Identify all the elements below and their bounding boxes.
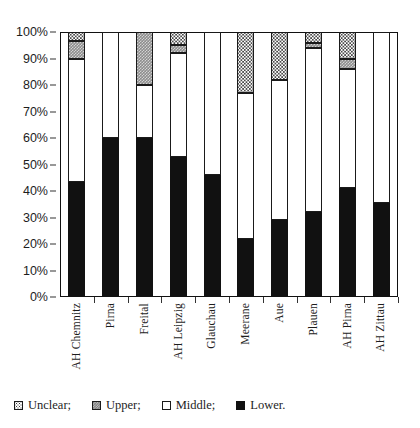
bar-stack bbox=[373, 32, 390, 297]
bar-segment-upper bbox=[136, 32, 153, 85]
legend-item-middle: Middle; bbox=[162, 399, 216, 412]
bar-segment-middle bbox=[102, 32, 119, 138]
bar-stack bbox=[204, 32, 221, 297]
bar-segment-lower bbox=[305, 212, 322, 297]
legend-swatch-lower-icon bbox=[236, 401, 245, 410]
legend-label: Unclear; bbox=[28, 399, 71, 412]
bar-segment-middle bbox=[271, 80, 288, 220]
bar-stack bbox=[271, 32, 288, 297]
y-tick-label: 20% bbox=[23, 238, 48, 251]
y-tick-mark bbox=[50, 111, 56, 112]
legend-swatch-unclear-icon bbox=[14, 401, 23, 410]
legend-item-unclear: Unclear; bbox=[14, 399, 71, 412]
bar-segment-middle bbox=[170, 53, 187, 156]
x-tick-mark bbox=[398, 297, 399, 303]
bar-segment-upper bbox=[68, 41, 85, 58]
x-axis-label-text: AH Zittau bbox=[375, 303, 387, 352]
bar-segment-middle bbox=[204, 32, 221, 175]
bar-segment-upper bbox=[305, 43, 322, 48]
bar-segment-lower bbox=[237, 239, 254, 297]
y-tick-mark bbox=[50, 138, 56, 139]
bar-segment-unclear bbox=[68, 32, 85, 41]
y-tick-label: 0% bbox=[30, 291, 48, 304]
y-tick-label: 90% bbox=[23, 52, 48, 65]
y-tick-mark bbox=[50, 297, 56, 298]
bar-segment-unclear bbox=[271, 32, 288, 80]
y-tick-label: 70% bbox=[23, 105, 48, 118]
y-tick-mark bbox=[50, 85, 56, 86]
bar-segment-upper bbox=[339, 59, 356, 70]
legend-swatch-middle-icon bbox=[162, 401, 171, 410]
x-axis-label: Freital bbox=[128, 303, 162, 387]
bar-segment-lower bbox=[271, 220, 288, 297]
y-tick-mark bbox=[50, 217, 56, 218]
bar-segment-lower bbox=[339, 188, 356, 297]
x-axis-label-text: Meerane bbox=[240, 303, 252, 345]
y-tick-label: 50% bbox=[23, 158, 48, 171]
y-tick-mark bbox=[50, 32, 56, 33]
bar-stack bbox=[339, 32, 356, 297]
y-tick-label: 80% bbox=[23, 79, 48, 92]
bar-segment-lower bbox=[204, 175, 221, 297]
stacked-bar-chart: 0%10%20%30%40%50%60%70%80%90%100% AH Che… bbox=[0, 0, 420, 428]
x-axis-label: Glauchau bbox=[195, 303, 229, 387]
y-axis: 0%10%20%30%40%50%60%70%80%90%100% bbox=[0, 32, 56, 297]
bar-segment-middle bbox=[237, 93, 254, 239]
legend-item-upper: Upper; bbox=[92, 399, 141, 412]
x-axis-label-text: Plauen bbox=[308, 303, 320, 336]
y-tick-mark bbox=[50, 270, 56, 271]
legend-label: Upper; bbox=[106, 399, 141, 412]
x-axis-label: AH Chemnitz bbox=[60, 303, 94, 387]
bars-layer bbox=[60, 32, 398, 297]
x-axis-label: AH Leipzig bbox=[161, 303, 195, 387]
bar-segment-upper bbox=[170, 45, 187, 53]
x-axis-label: Plauen bbox=[297, 303, 331, 387]
bar-stack bbox=[136, 32, 153, 297]
legend-swatch-upper-icon bbox=[92, 401, 101, 410]
bar-stack bbox=[68, 32, 85, 297]
y-tick-mark bbox=[50, 244, 56, 245]
bar-segment-lower bbox=[170, 157, 187, 297]
y-tick-mark bbox=[50, 191, 56, 192]
bar-stack bbox=[237, 32, 254, 297]
x-axis-label: AH Zittau bbox=[364, 303, 398, 387]
bar-segment-middle bbox=[68, 59, 85, 182]
legend-label: Middle; bbox=[176, 399, 216, 412]
y-tick-label: 30% bbox=[23, 211, 48, 224]
bar-segment-unclear bbox=[237, 32, 254, 93]
x-axis-label: Aue bbox=[263, 303, 297, 387]
bar-segment-lower bbox=[136, 138, 153, 297]
bar-stack bbox=[305, 32, 322, 297]
x-axis-label-text: AH Leipzig bbox=[173, 303, 185, 360]
bar-segment-middle bbox=[339, 69, 356, 188]
bar-segment-lower bbox=[373, 203, 390, 297]
y-tick-label: 100% bbox=[16, 26, 48, 39]
bar-segment-middle bbox=[373, 32, 390, 203]
bar-segment-unclear bbox=[170, 32, 187, 45]
x-axis-label: Meerane bbox=[229, 303, 263, 387]
bar-segment-unclear bbox=[339, 32, 356, 59]
x-axis-label-text: Aue bbox=[274, 303, 286, 323]
bar-stack bbox=[102, 32, 119, 297]
legend-label: Lower. bbox=[250, 399, 285, 412]
bar-segment-lower bbox=[102, 138, 119, 297]
x-axis-label-text: Pirna bbox=[105, 303, 117, 328]
y-tick-mark bbox=[50, 58, 56, 59]
x-axis-label-text: Glauchau bbox=[206, 303, 218, 349]
bar-stack bbox=[170, 32, 187, 297]
x-axis-label-text: Freital bbox=[139, 303, 151, 334]
y-tick-label: 40% bbox=[23, 185, 48, 198]
chart-legend: Unclear;Upper;Middle;Lower. bbox=[14, 399, 306, 412]
x-axis-labels: AH ChemnitzPirnaFreitalAH LeipzigGlaucha… bbox=[60, 303, 398, 387]
bar-segment-middle bbox=[305, 48, 322, 212]
x-axis-label: Pirna bbox=[94, 303, 128, 387]
y-tick-label: 10% bbox=[23, 264, 48, 277]
x-axis-label: AH Pirna bbox=[330, 303, 364, 387]
x-axis-label-text: AH Pirna bbox=[342, 303, 354, 348]
bar-segment-lower bbox=[68, 182, 85, 297]
y-tick-label: 60% bbox=[23, 132, 48, 145]
x-axis-label-text: AH Chemnitz bbox=[71, 303, 83, 369]
legend-item-lower: Lower. bbox=[236, 399, 285, 412]
bar-segment-unclear bbox=[305, 32, 322, 43]
bar-segment-middle bbox=[136, 85, 153, 138]
